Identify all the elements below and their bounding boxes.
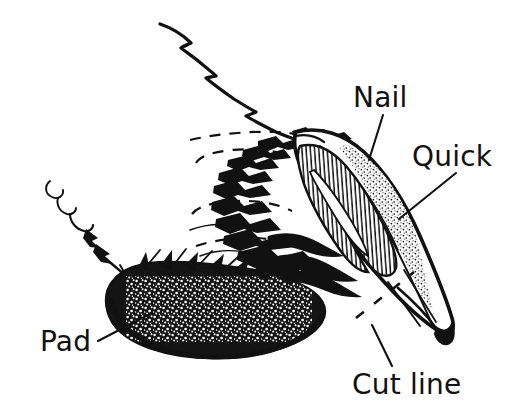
label-pad: Pad (40, 325, 91, 358)
fur-wisp-left (46, 181, 132, 283)
leader-cut-line (372, 325, 392, 366)
nail-anatomy-drawing: Nail Quick Pad Cut line (0, 0, 515, 417)
fur-upper-outline (160, 24, 294, 139)
label-cut-line: Cut line (352, 368, 461, 401)
leader-nail (369, 115, 383, 160)
leader-quick (399, 173, 456, 219)
nail-anatomy-figure: Nail Quick Pad Cut line (0, 0, 515, 417)
pad-stipple-texture (126, 276, 312, 342)
label-nail: Nail (353, 81, 407, 114)
label-quick: Quick (412, 140, 493, 173)
